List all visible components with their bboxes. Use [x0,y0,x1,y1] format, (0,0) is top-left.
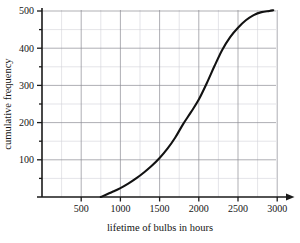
x-tick-label: 500 [74,203,89,214]
x-axis [37,193,295,200]
y-axis-tick-labels: 100200300400500 [19,5,34,165]
y-tick-label: 500 [19,5,34,16]
x-tick-label: 1500 [150,203,170,214]
x-tick-label: 1000 [110,203,130,214]
y-tick-label: 400 [19,43,34,54]
x-axis-tick-labels: 50010001500200025003000 [74,203,288,214]
y-axis-title: cumulative frequency [2,58,13,150]
chart-canvas: 50010001500200025003000 100200300400500 … [0,0,300,243]
y-tick-label: 300 [19,80,34,91]
x-axis-title: lifetime of bulbs in hours [107,222,213,233]
horizontal-minor-gridlines [42,30,276,179]
x-tick-label: 2500 [228,203,248,214]
cumulative-frequency-curve [101,10,273,197]
x-tick-label: 3000 [267,203,287,214]
y-tick-label: 100 [19,154,34,165]
cumulative-frequency-chart: 50010001500200025003000 100200300400500 … [0,0,300,243]
x-axis-arrow-icon [286,193,295,200]
y-tick-label: 200 [19,117,34,128]
horizontal-major-gridlines [42,11,276,160]
x-tick-label: 2000 [189,203,209,214]
